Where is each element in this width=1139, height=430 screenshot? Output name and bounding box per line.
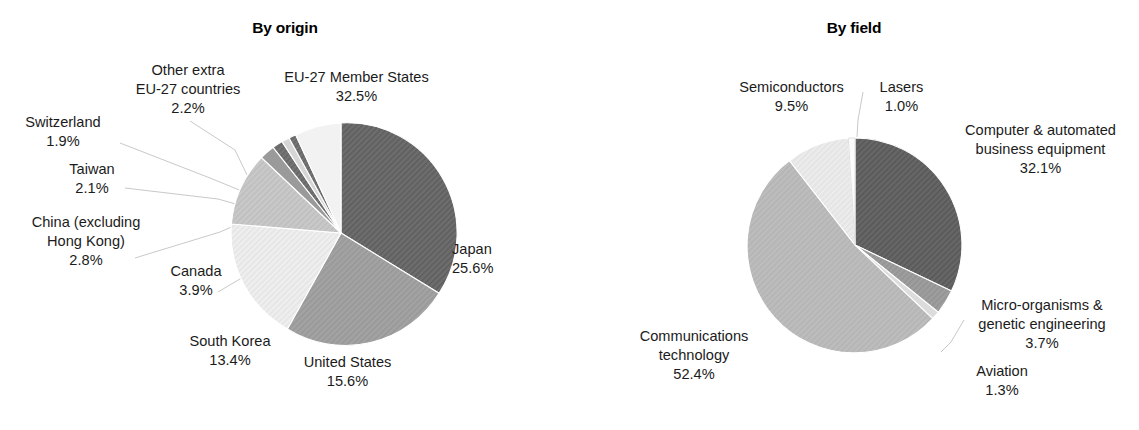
label-south-korea: South Korea 13.4% <box>165 332 295 370</box>
label-south-korea-pct: 13.4% <box>165 351 295 370</box>
label-japan: Japan 25.6% <box>452 240 542 278</box>
panel-by-origin: By origin <box>0 0 570 430</box>
label-japan-name: Japan <box>452 240 542 259</box>
label-lasers-name: Lasers <box>864 78 939 97</box>
label-other-extra-eu27-pct: 2.2% <box>113 99 263 118</box>
label-china: China (excluding Hong Kong) 2.8% <box>6 213 166 270</box>
label-lasers: Lasers 1.0% <box>864 78 939 116</box>
label-eu27: EU-27 Member States 32.5% <box>264 68 449 106</box>
label-switzerland: Switzerland 1.9% <box>2 113 124 151</box>
label-china-name-line2: Hong Kong) <box>6 232 166 251</box>
label-aviation: Aviation 1.3% <box>947 362 1057 400</box>
label-china-pct: 2.8% <box>6 251 166 270</box>
label-micro-organisms-genetic-engineering: Micro-organisms & genetic engineering 3.… <box>952 296 1132 353</box>
label-switzerland-name: Switzerland <box>2 113 124 132</box>
label-switzerland-pct: 1.9% <box>2 132 124 151</box>
label-other-extra-eu27-line1: Other extra <box>113 61 263 80</box>
label-other-extra-eu27-line2: EU-27 countries <box>113 80 263 99</box>
label-semiconductors-name: Semiconductors <box>709 78 874 97</box>
label-eu27-name: EU-27 Member States <box>264 68 449 87</box>
label-communications-line2: technology <box>609 346 779 365</box>
label-micro-line1: Micro-organisms & <box>952 296 1132 315</box>
label-south-korea-name: South Korea <box>165 332 295 351</box>
label-united-states: United States 15.6% <box>280 353 415 391</box>
label-semiconductors: Semiconductors 9.5% <box>709 78 874 116</box>
label-lasers-pct: 1.0% <box>864 97 939 116</box>
label-computer-line1: Computer & automated <box>944 121 1137 140</box>
label-computer-line2: business equipment <box>944 140 1137 159</box>
label-taiwan: Taiwan 2.1% <box>43 160 141 198</box>
label-other-extra-eu27: Other extra EU-27 countries 2.2% <box>113 61 263 118</box>
label-micro-line2: genetic engineering <box>952 315 1132 334</box>
pie-chart-figure: By origin <box>0 0 1139 430</box>
label-aviation-pct: 1.3% <box>947 381 1057 400</box>
label-computer-pct: 32.1% <box>944 159 1137 178</box>
panel-by-field: By field <box>569 0 1139 430</box>
label-japan-pct: 25.6% <box>452 259 542 278</box>
label-communications-technology: Communications technology 52.4% <box>609 327 779 384</box>
label-semiconductors-pct: 9.5% <box>709 97 874 116</box>
label-canada-pct: 3.9% <box>151 281 241 300</box>
label-eu27-pct: 32.5% <box>264 87 449 106</box>
label-taiwan-name: Taiwan <box>43 160 141 179</box>
label-taiwan-pct: 2.1% <box>43 179 141 198</box>
label-micro-pct: 3.7% <box>952 334 1132 353</box>
label-communications-line1: Communications <box>609 327 779 346</box>
label-united-states-name: United States <box>280 353 415 372</box>
label-computer-automated-business-equipment: Computer & automated business equipment … <box>944 121 1137 178</box>
label-aviation-name: Aviation <box>947 362 1057 381</box>
label-china-name-line1: China (excluding <box>6 213 166 232</box>
label-communications-pct: 52.4% <box>609 365 779 384</box>
label-united-states-pct: 15.6% <box>280 372 415 391</box>
